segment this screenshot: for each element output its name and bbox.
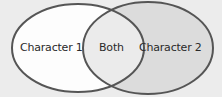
- right-set-label: Character 2: [139, 42, 202, 54]
- left-set-label: Character 1: [20, 42, 83, 54]
- venn-diagram: Character 1 Both Character 2: [0, 0, 222, 97]
- intersection-label: Both: [99, 42, 124, 54]
